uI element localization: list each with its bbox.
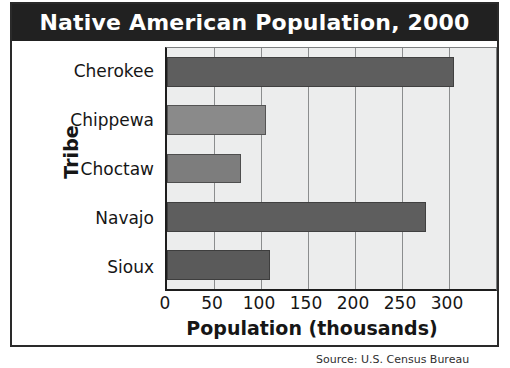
bar-slot — [167, 96, 496, 144]
x-axis-tick-label: 250 — [384, 293, 416, 313]
bar-chippewa — [167, 105, 266, 135]
chart-figure: Native American Population, 2000 Tribe C… — [10, 2, 499, 347]
bar-slot — [167, 144, 496, 192]
plot-area — [165, 47, 497, 291]
bar-cherokee — [167, 57, 454, 87]
source-note: Source: U.S. Census Bureau — [316, 353, 469, 366]
chart-title: Native American Population, 2000 — [39, 10, 469, 35]
chart-body: Tribe Cherokee Chippewa Choctaw Navajo S… — [12, 41, 497, 345]
y-axis-tick-label: Navajo — [52, 193, 160, 242]
x-axis-tick-label: 50 — [201, 293, 223, 313]
x-axis-tick-label: 300 — [431, 293, 463, 313]
bar-navajo — [167, 202, 426, 232]
x-axis-title: Population (thousands) — [132, 317, 492, 339]
bar-slot — [167, 193, 496, 241]
bar-sioux — [167, 250, 270, 280]
y-axis-tick-label: Choctaw — [52, 145, 160, 194]
bar-series — [167, 48, 496, 289]
bar-choctaw — [167, 154, 241, 184]
bar-slot — [167, 241, 496, 289]
x-axis-tick-label: 200 — [337, 293, 369, 313]
y-axis-tick-label: Chippewa — [52, 96, 160, 145]
chart-title-bar: Native American Population, 2000 — [12, 4, 497, 41]
x-axis-tick-label: 100 — [243, 293, 275, 313]
x-axis-tick-label: 150 — [290, 293, 322, 313]
x-axis-tick-labels: 050100150200250300 — [165, 293, 497, 317]
y-axis-tick-labels: Cherokee Chippewa Choctaw Navajo Sioux — [52, 47, 160, 291]
x-axis-tick-label: 0 — [160, 293, 171, 313]
bar-slot — [167, 48, 496, 96]
y-axis-tick-label: Cherokee — [52, 47, 160, 96]
y-axis-tick-label: Sioux — [52, 242, 160, 291]
